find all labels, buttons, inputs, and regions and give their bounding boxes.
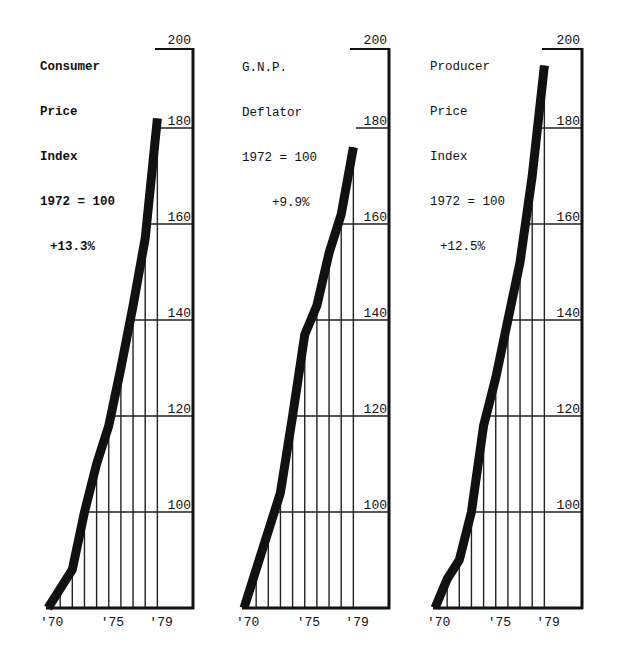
x-tick-label: '70 bbox=[40, 615, 63, 630]
y-tick-label: 180 bbox=[557, 114, 580, 129]
y-tick-label: 200 bbox=[364, 33, 387, 48]
x-tick-label: '75 bbox=[297, 615, 320, 630]
y-tick-label: 140 bbox=[168, 306, 191, 321]
y-tick-label: 100 bbox=[557, 498, 580, 513]
y-tick-label: 120 bbox=[364, 402, 387, 417]
charts-canvas: 100120140160180200'70'75'791001201401601… bbox=[0, 0, 625, 662]
y-tick-label: 200 bbox=[557, 33, 580, 48]
y-tick-label: 180 bbox=[364, 114, 387, 129]
x-tick-label: '75 bbox=[101, 615, 124, 630]
y-tick-label: 120 bbox=[168, 402, 191, 417]
y-tick-label: 100 bbox=[364, 498, 387, 513]
cpi-plot: 100120140160180200'70'75'79 bbox=[40, 33, 194, 630]
x-tick-label: '79 bbox=[536, 615, 559, 630]
x-tick-label: '79 bbox=[345, 615, 368, 630]
y-tick-label: 100 bbox=[168, 498, 191, 513]
ppi-data-line bbox=[435, 66, 544, 608]
gnp-data-line bbox=[244, 147, 353, 608]
x-tick-label: '75 bbox=[488, 615, 511, 630]
y-tick-label: 160 bbox=[557, 210, 580, 225]
x-tick-label: '70 bbox=[236, 615, 259, 630]
y-tick-label: 140 bbox=[364, 306, 387, 321]
x-tick-label: '70 bbox=[427, 615, 450, 630]
y-tick-label: 140 bbox=[557, 306, 580, 321]
y-tick-label: 160 bbox=[364, 210, 387, 225]
y-tick-label: 200 bbox=[168, 33, 191, 48]
y-tick-label: 120 bbox=[557, 402, 580, 417]
cpi-data-line bbox=[48, 118, 157, 608]
y-tick-label: 180 bbox=[168, 114, 191, 129]
x-tick-label: '79 bbox=[149, 615, 172, 630]
gnp-plot: 100120140160180200'70'75'79 bbox=[236, 33, 390, 630]
y-tick-label: 160 bbox=[168, 210, 191, 225]
ppi-plot: 100120140160180200'70'75'79 bbox=[427, 33, 583, 630]
